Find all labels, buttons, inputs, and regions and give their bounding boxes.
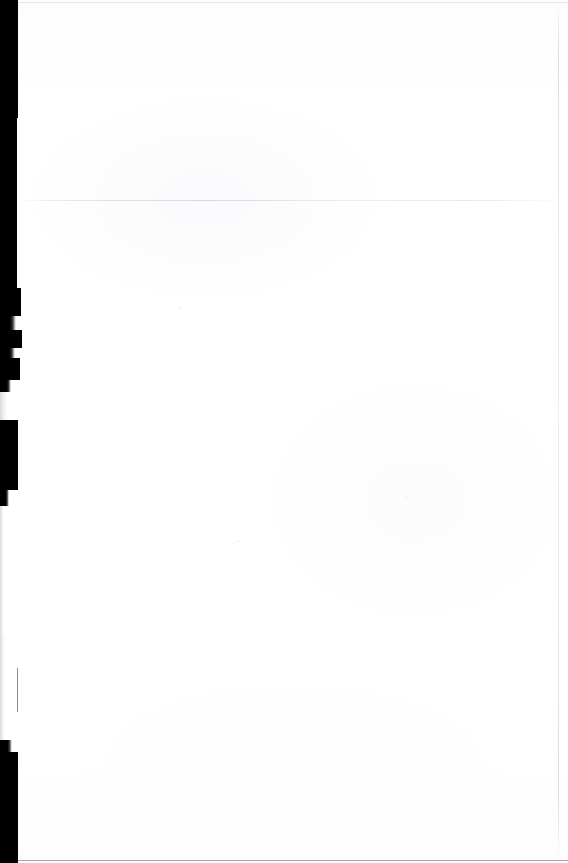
scan-speck (445, 517, 447, 519)
scan-shadow-segment (0, 420, 18, 490)
scan-shadow-segment (0, 348, 15, 358)
page-right-edge (558, 0, 559, 863)
horizontal-scan-artifact (18, 200, 568, 201)
scan-speck (178, 306, 181, 309)
page-top-rule (18, 2, 568, 3)
paper-surface (0, 0, 568, 863)
scan-shadow-segment (0, 358, 20, 380)
scan-shadow-segment (0, 506, 4, 636)
scan-shadow-segment (0, 490, 9, 506)
scan-speck (233, 542, 235, 544)
scan-shadow-segment (0, 392, 7, 420)
scan-shadow-segment (0, 206, 17, 288)
left-scan-shadow (0, 0, 30, 863)
scan-shadow-segment (0, 380, 11, 392)
scan-shadow-segment (0, 636, 5, 740)
scan-shadow-segment (0, 740, 12, 752)
scan-edge-hairline (17, 668, 18, 712)
scan-shadow-segment (0, 118, 17, 206)
scan-shadow-segment (0, 752, 18, 863)
scan-speck (236, 540, 239, 543)
scanned-page: Blank scanned document page (0, 0, 568, 863)
scan-shadow-segment (0, 288, 21, 316)
scan-speck (404, 496, 407, 499)
scan-shadow-segment (0, 316, 16, 330)
scan-shadow-segment (0, 330, 22, 348)
scan-shadow-segment (0, 0, 18, 118)
page-bottom-rule (18, 860, 568, 861)
